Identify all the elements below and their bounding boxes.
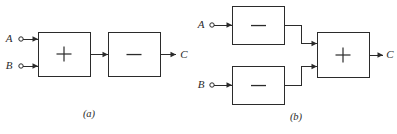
panel-a-input-a xyxy=(19,36,38,42)
minus-sign-icon xyxy=(251,85,266,86)
panel-a-block-plus xyxy=(39,33,91,77)
plus-sign-icon-vertical xyxy=(342,48,343,63)
label-output-c: C xyxy=(386,48,394,60)
panel-b-block-plus xyxy=(318,33,370,78)
minus-sign-icon xyxy=(127,54,142,55)
caption-panel-a: (a) xyxy=(83,108,96,120)
panel-a-block-minus xyxy=(109,33,161,77)
panel-b-input-a xyxy=(210,22,232,28)
arrow-head-interconnect xyxy=(103,52,109,58)
arrow-head-a-input xyxy=(227,22,233,28)
wire-top-to-sum xyxy=(285,26,318,44)
label-input-a: A xyxy=(5,32,13,44)
panel-a-input-b xyxy=(19,63,38,69)
label-input-a: A xyxy=(197,18,205,30)
arrow-head-b-input xyxy=(33,63,39,69)
arrow-head-top-into-sum xyxy=(312,41,318,47)
panel-b-block-minus-top xyxy=(233,7,285,45)
panel-b-route-bottom xyxy=(285,64,318,86)
arrow-head-c-output xyxy=(378,52,384,58)
panel-b-output-c xyxy=(370,52,384,58)
minus-sign-icon xyxy=(251,25,266,26)
panel-b-block-minus-bottom xyxy=(233,67,285,105)
figure-root: A B C (a) xyxy=(0,0,397,134)
panel-b: A B C (b) xyxy=(197,7,395,124)
arrow-head-b-input xyxy=(227,82,233,88)
panel-b-input-b xyxy=(210,82,232,88)
label-input-b: B xyxy=(6,59,13,71)
terminal-circle-b xyxy=(210,83,214,87)
label-output-c: C xyxy=(180,48,188,60)
arrow-head-c-output xyxy=(171,52,177,58)
caption-panel-b: (b) xyxy=(290,111,303,123)
terminal-circle-b xyxy=(19,64,23,68)
arrow-head-a-input xyxy=(33,36,39,42)
panel-a-interconnect xyxy=(91,52,109,58)
panel-a-output-c xyxy=(161,52,177,58)
terminal-circle-a xyxy=(210,23,214,27)
label-input-b: B xyxy=(198,78,205,90)
block-diagram-canvas: A B C (a) xyxy=(0,0,397,134)
terminal-circle-a xyxy=(19,37,23,41)
panel-a: A B C (a) xyxy=(5,32,189,120)
arrow-head-bottom-into-sum xyxy=(312,64,318,70)
panel-b-route-top xyxy=(285,26,318,47)
plus-sign-icon-vertical xyxy=(63,47,64,62)
wire-bottom-to-sum xyxy=(285,67,318,86)
